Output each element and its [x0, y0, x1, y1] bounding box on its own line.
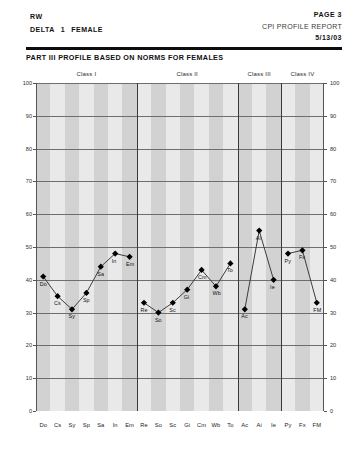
y-axis-tick-mark: [33, 116, 36, 117]
x-axis-tick-do: Do: [39, 422, 47, 428]
class-label-2: Class II: [176, 71, 198, 77]
y-axis-tick-right: 30: [330, 310, 352, 316]
y-axis-tick-mark: [324, 313, 327, 314]
data-point-fx: [299, 247, 305, 253]
y-axis-tick-right: 40: [330, 277, 352, 283]
data-point-ai: [256, 228, 262, 234]
x-axis-tick-em: Em: [125, 422, 134, 428]
series-segment-3: [245, 231, 274, 310]
data-point-label-so: So: [155, 317, 162, 323]
y-axis-tick-left: 50: [10, 244, 32, 250]
y-axis-tick-mark: [324, 83, 327, 84]
y-axis-tick-mark: [324, 411, 327, 412]
data-point-label-py: Py: [285, 258, 292, 264]
x-axis-tick-in: In: [113, 422, 118, 428]
x-axis-tick-fx: Fx: [299, 422, 306, 428]
data-point-ac: [242, 306, 248, 312]
data-point-to: [227, 260, 233, 266]
x-axis-tick-ai: Ai: [257, 422, 262, 428]
y-axis-tick-right: 0: [330, 408, 352, 414]
y-axis-tick-right: 70: [330, 178, 352, 184]
class-label-1: Class I: [77, 71, 97, 77]
y-axis-tick-left: 0: [10, 408, 32, 414]
data-point-label-ac: Ac: [241, 313, 248, 319]
x-axis-tick-wb: Wb: [212, 422, 221, 428]
y-axis-tick-right: 80: [330, 146, 352, 152]
y-axis-tick-right: 20: [330, 342, 352, 348]
y-axis-tick-right: 10: [330, 375, 352, 381]
y-axis-tick-mark: [324, 214, 327, 215]
data-point-label-wb: Wb: [213, 290, 221, 296]
y-axis-tick-left: 60: [10, 211, 32, 217]
y-axis-tick-mark: [33, 313, 36, 314]
x-axis-tick-sa: Sa: [97, 422, 104, 428]
data-point-label-sy: Sy: [69, 313, 76, 319]
x-axis-tick-to: To: [227, 422, 233, 428]
y-axis-tick-left: 70: [10, 178, 32, 184]
data-point-em: [127, 254, 133, 260]
y-axis-tick-mark: [33, 411, 36, 412]
data-point-label-sp: Sp: [83, 297, 90, 303]
y-axis-tick-mark: [324, 378, 327, 379]
y-axis-tick-mark: [324, 149, 327, 150]
data-point-label-fx: Fx: [299, 254, 305, 260]
y-axis-tick-mark: [33, 149, 36, 150]
y-axis-tick-mark: [33, 214, 36, 215]
y-axis-tick-left: 30: [10, 310, 32, 316]
data-point-label-cm: Cm: [198, 274, 207, 280]
data-point-ie: [271, 277, 277, 283]
y-axis-tick-right: 60: [330, 211, 352, 217]
data-point-label-ie: Ie: [270, 284, 275, 290]
data-point-label-fm: FM: [313, 307, 321, 313]
y-axis-tick-mark: [33, 280, 36, 281]
y-axis-tick-left: 100: [10, 80, 32, 86]
y-axis-tick-left: 90: [10, 113, 32, 119]
data-point-label-gi: Gi: [184, 294, 190, 300]
y-axis-tick-mark: [33, 181, 36, 182]
data-point-label-ai: Ai: [256, 235, 261, 241]
x-axis-tick-so: So: [155, 422, 162, 428]
y-axis-tick-left: 10: [10, 375, 32, 381]
x-axis-tick-py: Py: [285, 422, 292, 428]
y-axis-tick-mark: [324, 247, 327, 248]
x-axis-tick-sc: Sc: [169, 422, 176, 428]
y-axis-tick-right: 90: [330, 113, 352, 119]
data-point-label-in: In: [112, 258, 117, 264]
data-point-label-re: Re: [141, 307, 148, 313]
x-axis-tick-sy: Sy: [69, 422, 76, 428]
y-axis-tick-mark: [33, 378, 36, 379]
data-point-re: [141, 300, 147, 306]
y-axis-tick-mark: [33, 247, 36, 248]
data-point-label-to: To: [227, 267, 233, 273]
x-axis-tick-ie: Ie: [271, 422, 276, 428]
x-axis-tick-re: Re: [140, 422, 148, 428]
data-point-label-sa: Sa: [97, 271, 104, 277]
data-point-py: [285, 250, 291, 256]
class-label-3: Class III: [247, 71, 270, 77]
profile-series: [36, 83, 324, 411]
x-axis-tick-gi: Gi: [184, 422, 190, 428]
y-axis-tick-mark: [33, 83, 36, 84]
y-axis-tick-left: 80: [10, 146, 32, 152]
y-axis-tick-mark: [324, 345, 327, 346]
data-point-label-sc: Sc: [169, 307, 176, 313]
x-axis-tick-fm: FM: [313, 422, 322, 428]
x-axis-tick-ac: Ac: [241, 422, 248, 428]
x-axis-tick-cm: Cm: [197, 422, 206, 428]
y-axis-tick-mark: [324, 116, 327, 117]
data-point-fm: [314, 300, 320, 306]
data-point-label-cs: Cs: [54, 300, 61, 306]
y-axis-tick-mark: [324, 280, 327, 281]
data-point-so: [155, 310, 161, 316]
y-axis-tick-right: 100: [330, 80, 352, 86]
y-axis-tick-left: 40: [10, 277, 32, 283]
x-axis-tick-sp: Sp: [83, 422, 90, 428]
y-axis-tick-right: 50: [330, 244, 352, 250]
data-point-label-em: Em: [126, 261, 134, 267]
profile-chart: Class IClass IIClass IIIClass IV00101020…: [0, 0, 356, 452]
y-axis-tick-mark: [324, 181, 327, 182]
x-axis-tick-cs: Cs: [54, 422, 61, 428]
class-label-4: Class IV: [290, 71, 314, 77]
y-axis-tick-mark: [33, 345, 36, 346]
data-point-label-do: Do: [40, 281, 47, 287]
